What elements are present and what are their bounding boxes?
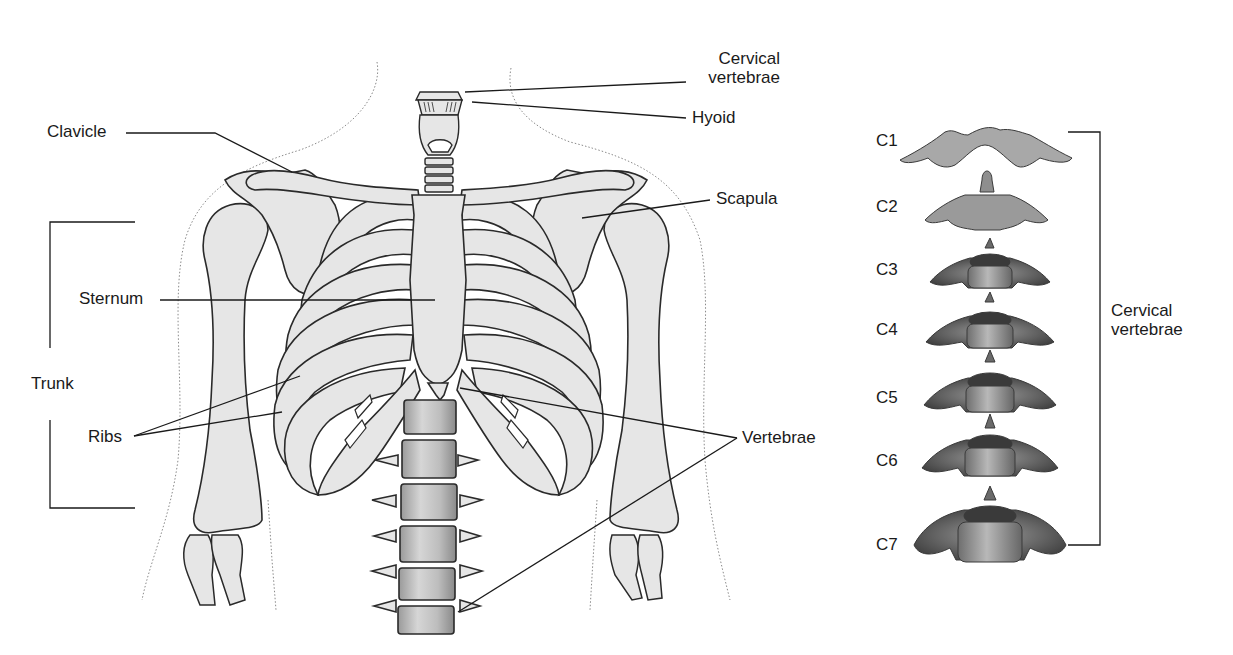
label-ribs: Ribs <box>88 427 122 446</box>
label-c2: C2 <box>876 197 898 216</box>
vertebra-c2 <box>925 171 1048 230</box>
label-c1: C1 <box>876 131 898 150</box>
label-line: vertebrae <box>1111 320 1183 339</box>
label-cervical-vertebrae-top: Cervical vertebrae <box>676 49 780 87</box>
label-c5: C5 <box>876 388 898 407</box>
vertebra-c4 <box>926 292 1054 348</box>
skeleton-illustration <box>0 0 1233 655</box>
label-sternum: Sternum <box>79 289 143 308</box>
humerus-left <box>194 204 268 533</box>
humerus-right <box>604 204 678 533</box>
vertebra-c5 <box>924 350 1056 412</box>
vertebra-c1 <box>900 128 1072 168</box>
vertebra-c6 <box>922 414 1058 476</box>
label-cervical-vertebrae-side: Cervical vertebrae <box>1111 301 1183 339</box>
vertebra-c3 <box>930 238 1050 288</box>
anatomy-diagram: Cervical vertebrae Hyoid Clavicle Scapul… <box>0 0 1233 655</box>
label-trunk: Trunk <box>31 374 74 393</box>
label-c4: C4 <box>876 320 898 339</box>
label-scapula: Scapula <box>716 189 777 208</box>
forearm-right <box>610 535 663 600</box>
label-line: vertebrae <box>676 68 780 87</box>
label-c6: C6 <box>876 451 898 470</box>
label-c7: C7 <box>876 535 898 554</box>
label-c3: C3 <box>876 260 898 279</box>
vertebra-c7 <box>914 486 1066 562</box>
label-vertebrae: Vertebrae <box>742 428 816 447</box>
forearm-left <box>184 535 245 605</box>
sternum <box>410 195 466 400</box>
label-clavicle: Clavicle <box>47 122 107 141</box>
label-hyoid: Hyoid <box>692 108 735 127</box>
label-line: Cervical <box>1111 301 1183 320</box>
label-line: Cervical <box>676 49 780 68</box>
cervical-series-illustration <box>900 128 1072 562</box>
